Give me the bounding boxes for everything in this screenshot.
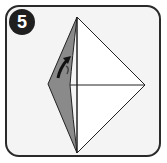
step-number-badge: 5	[9, 9, 35, 35]
